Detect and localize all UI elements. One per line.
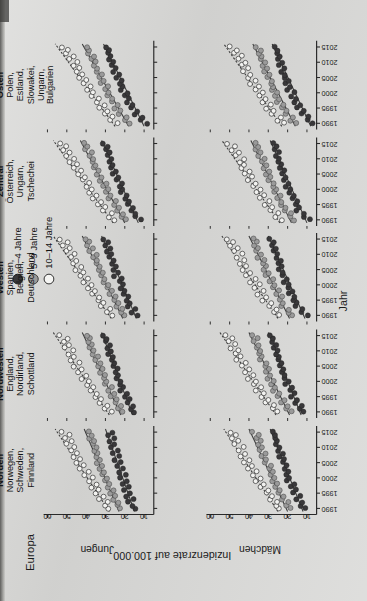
svg-text:1990: 1990 xyxy=(321,215,337,224)
panel-country-list: England,Nordirland,Schottland xyxy=(5,329,35,418)
panel-osten-maedchen: 199019952000200520102015 xyxy=(202,40,320,129)
series-points-0 xyxy=(270,429,308,510)
panel-header-norden: NordenNorwegen,Schweden,Finnland xyxy=(0,425,35,514)
series-points-0 xyxy=(270,140,312,221)
svg-text:60: 60 xyxy=(43,512,51,521)
svg-text:2000: 2000 xyxy=(321,377,337,386)
svg-text:1995: 1995 xyxy=(321,103,337,112)
svg-text:50: 50 xyxy=(62,512,70,521)
plot-area: 102030405060 xyxy=(39,425,157,514)
panel-region-name: Zentral xyxy=(0,137,5,226)
row-label-maedchen: Mädchen xyxy=(201,543,318,555)
svg-text:1990: 1990 xyxy=(321,119,337,128)
plot-area xyxy=(39,233,157,322)
panel-nordwesten-maedchen: 199019952000200520102015 xyxy=(202,329,320,418)
svg-text:2010: 2010 xyxy=(321,443,337,452)
svg-text:1990: 1990 xyxy=(321,311,337,320)
plot-area: 199019952000200520102015 xyxy=(202,329,320,418)
series-points-0 xyxy=(105,430,137,511)
x-axis-label: Jahr xyxy=(337,25,349,577)
svg-text:2010: 2010 xyxy=(321,154,337,163)
svg-text:2000: 2000 xyxy=(321,473,337,482)
svg-text:10: 10 xyxy=(140,512,148,521)
series-points-2 xyxy=(59,429,111,511)
svg-text:2005: 2005 xyxy=(321,169,337,178)
panel-zentral-maedchen: 199019952000200520102015 xyxy=(202,137,320,226)
svg-text:2000: 2000 xyxy=(321,185,337,194)
svg-text:30: 30 xyxy=(264,512,272,521)
series-points-2 xyxy=(222,332,279,413)
panel-country-list: Norwegen,Schweden,Finnland xyxy=(5,425,35,514)
svg-text:2005: 2005 xyxy=(321,458,337,467)
plot-area xyxy=(39,329,157,418)
plot-area: 199019952000200520102015102030405060 xyxy=(202,425,320,514)
svg-text:40: 40 xyxy=(244,512,252,521)
svg-text:2015: 2015 xyxy=(321,428,337,437)
svg-text:2015: 2015 xyxy=(321,42,337,51)
series-points-0 xyxy=(272,43,315,125)
svg-text:50: 50 xyxy=(225,512,233,521)
row-label-jungen: Jungen xyxy=(38,543,155,555)
svg-text:1995: 1995 xyxy=(321,392,337,401)
plot-area xyxy=(39,40,157,129)
plot-area: 199019952000200520102015 xyxy=(202,233,320,322)
svg-text:30: 30 xyxy=(101,512,109,521)
panel-region-name: Westen xyxy=(0,233,5,322)
svg-text:2005: 2005 xyxy=(321,266,337,275)
panel-norden-maedchen: 199019952000200520102015102030405060 xyxy=(202,425,320,514)
scan-corner-mark xyxy=(0,0,9,22)
svg-text:40: 40 xyxy=(82,512,90,521)
multi-panel-scatter-figure: Europa Inzidenzrate auf 100.000 Jahr 0–4… xyxy=(18,25,350,577)
svg-text:2010: 2010 xyxy=(321,347,337,356)
figure-container: Europa Inzidenzrate auf 100.000 Jahr 0–4… xyxy=(18,25,350,577)
svg-text:2015: 2015 xyxy=(321,331,337,340)
panel-region-name: Norden xyxy=(0,425,5,514)
svg-text:2015: 2015 xyxy=(321,139,337,148)
panel-header-westen: WestenSpanien,Belgien,Deutschland xyxy=(0,233,35,322)
svg-text:1990: 1990 xyxy=(321,504,337,513)
panel-osten-jungen: OstenPolen,Estland,Slowakei,Ungarn,Bulga… xyxy=(39,40,157,129)
plot-area: 199019952000200520102015 xyxy=(202,137,320,226)
series-points-1 xyxy=(252,139,296,222)
svg-text:1995: 1995 xyxy=(321,489,337,498)
panel-header-nordwesten: NordwestenEngland,Nordirland,Schottland xyxy=(0,329,35,418)
panel-country-list: Spanien,Belgien,Deutschland xyxy=(5,233,35,322)
svg-text:2010: 2010 xyxy=(321,58,337,67)
panel-grid: NordenNorwegen,Schweden,Finnland10203040… xyxy=(39,40,320,514)
svg-text:2005: 2005 xyxy=(321,73,337,82)
series-points-0 xyxy=(100,237,139,318)
panel-region-name: Osten xyxy=(0,40,5,129)
svg-text:1990: 1990 xyxy=(321,408,337,417)
panel-zentral-jungen: ZentralÖsterreich,Ungarn,Tschechei xyxy=(39,137,157,226)
svg-text:2015: 2015 xyxy=(321,235,337,244)
svg-text:60: 60 xyxy=(206,512,214,521)
figure-supertitle: Europa xyxy=(24,533,36,570)
svg-text:20: 20 xyxy=(120,512,128,521)
svg-text:1995: 1995 xyxy=(321,200,337,209)
svg-text:2000: 2000 xyxy=(321,88,337,97)
panel-region-name: Nordwesten xyxy=(0,329,5,418)
plot-area xyxy=(39,137,157,226)
panel-nordwesten-jungen: NordwestenEngland,Nordirland,Schottland xyxy=(39,329,157,418)
panel-westen-maedchen: 199019952000200520102015 xyxy=(202,233,320,322)
svg-text:2000: 2000 xyxy=(321,281,337,290)
svg-text:2010: 2010 xyxy=(321,250,337,259)
svg-text:1995: 1995 xyxy=(321,296,337,305)
panel-country-list: Österreich,Ungarn,Tschechei xyxy=(5,137,35,226)
plot-area: 199019952000200520102015 xyxy=(202,40,320,129)
svg-text:20: 20 xyxy=(283,512,291,521)
panel-westen-jungen: WestenSpanien,Belgien,Deutschland xyxy=(39,233,157,322)
panel-norden-jungen: NordenNorwegen,Schweden,Finnland10203040… xyxy=(39,425,157,514)
svg-text:2005: 2005 xyxy=(321,362,337,371)
panel-header-zentral: ZentralÖsterreich,Ungarn,Tschechei xyxy=(0,137,35,226)
svg-text:10: 10 xyxy=(302,512,310,521)
